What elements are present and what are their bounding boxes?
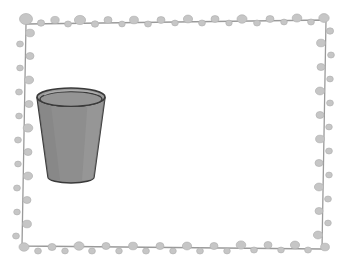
frame-beads-top — [20, 14, 330, 28]
cup — [37, 88, 106, 183]
frame-beads-right — [313, 28, 334, 251]
illustration-scene: Water displacement science illustration — [0, 0, 349, 275]
illustration-canvas — [0, 0, 349, 275]
cup-rim-inner — [40, 92, 102, 107]
